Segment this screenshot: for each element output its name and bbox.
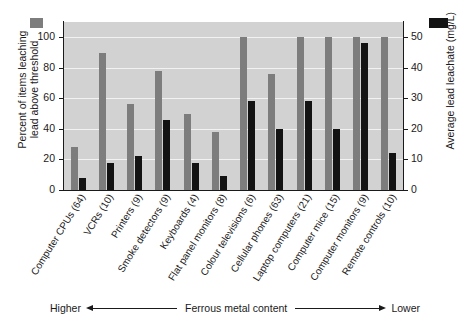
axis-tick-label: 20 bbox=[43, 153, 55, 163]
y-axis-left-line bbox=[63, 21, 64, 191]
arrow-head-left-icon bbox=[86, 305, 93, 311]
bar-average-leachate bbox=[276, 129, 283, 190]
chart-figure: Percent of items leaching lead above thr… bbox=[0, 0, 463, 329]
axis-tick-label: 0 bbox=[49, 184, 55, 194]
bar-average-leachate bbox=[305, 101, 312, 190]
bar-percent-leaching bbox=[381, 37, 388, 190]
axis-tick bbox=[404, 190, 408, 191]
bar-percent-leaching bbox=[325, 37, 332, 190]
axis-tick bbox=[59, 98, 63, 99]
bar-percent-leaching bbox=[212, 132, 219, 190]
bar-percent-leaching bbox=[268, 74, 275, 190]
category-label: Smoke detectors (9) bbox=[115, 192, 172, 274]
bar-groups bbox=[64, 22, 403, 190]
axis-tick-label: 0 bbox=[411, 184, 417, 194]
bar-average-leachate bbox=[107, 163, 114, 190]
axis-tick-label: 100 bbox=[37, 31, 55, 41]
bar-group bbox=[375, 22, 403, 190]
axis-tick-label: 10 bbox=[411, 153, 423, 163]
axis-tick bbox=[404, 129, 408, 130]
bar-average-leachate bbox=[79, 178, 86, 190]
category-label: Computer mice (15) bbox=[286, 192, 342, 273]
bar-average-leachate bbox=[192, 163, 199, 190]
axis-tick bbox=[59, 159, 63, 160]
bar-average-leachate bbox=[361, 43, 368, 190]
arrow-right bbox=[295, 303, 386, 313]
arrow-left-line bbox=[93, 308, 177, 309]
category-label: Remote controls (10) bbox=[339, 192, 398, 277]
bar-percent-leaching bbox=[184, 114, 191, 190]
bar-average-leachate bbox=[333, 129, 340, 190]
bar-percent-leaching bbox=[353, 37, 360, 190]
y-axis-right-title: Average lead leachate (mg/L) bbox=[445, 1, 457, 161]
y-axis-left-title: Percent of items leaching lead above thr… bbox=[17, 10, 40, 170]
axis-tick-label: 40 bbox=[411, 62, 423, 72]
bar-group bbox=[347, 22, 375, 190]
arrow-right-line bbox=[295, 308, 379, 309]
ferrous-higher-label: Higher bbox=[50, 302, 81, 314]
x-axis-line bbox=[63, 190, 404, 191]
bar-percent-leaching bbox=[297, 37, 304, 190]
bar-average-leachate bbox=[248, 101, 255, 190]
axis-tick-label: 30 bbox=[411, 92, 423, 102]
bar-group bbox=[149, 22, 177, 190]
bar-group bbox=[121, 22, 149, 190]
bar-percent-leaching bbox=[127, 104, 134, 190]
bar-group bbox=[177, 22, 205, 190]
bar-group bbox=[64, 22, 92, 190]
axis-tick bbox=[59, 190, 63, 191]
ferrous-lower-label: Lower bbox=[391, 302, 420, 314]
axis-tick bbox=[404, 98, 408, 99]
bar-average-leachate bbox=[163, 120, 170, 190]
axis-tick-label: 60 bbox=[43, 92, 55, 102]
arrow-head-right-icon bbox=[379, 305, 386, 311]
axis-tick bbox=[59, 68, 63, 69]
ferrous-metal-content-label: Ferrous metal content bbox=[182, 302, 290, 314]
axis-tick bbox=[404, 37, 408, 38]
bar-group bbox=[290, 22, 318, 190]
category-label: Cellular phones (63) bbox=[228, 192, 285, 274]
axis-tick bbox=[404, 159, 408, 160]
bar-average-leachate bbox=[220, 176, 227, 190]
bar-group bbox=[234, 22, 262, 190]
category-label: Computer CPUs (64) bbox=[29, 192, 88, 277]
axis-tick-label: 20 bbox=[411, 123, 423, 133]
bar-group bbox=[262, 22, 290, 190]
axis-tick bbox=[59, 129, 63, 130]
arrow-left bbox=[86, 303, 177, 313]
axis-tick-label: 80 bbox=[43, 62, 55, 72]
ferrous-metal-annotation: Higher Ferrous metal content Lower bbox=[50, 300, 420, 316]
bar-group bbox=[205, 22, 233, 190]
bar-percent-leaching bbox=[71, 147, 78, 190]
axis-tick-label: 40 bbox=[43, 123, 55, 133]
bar-percent-leaching bbox=[155, 71, 162, 190]
x-axis-category-labels: Computer CPUs (64)VCRs (10)Printers (9)S… bbox=[64, 192, 403, 292]
bar-percent-leaching bbox=[240, 37, 247, 190]
bar-percent-leaching bbox=[99, 53, 106, 190]
bar-average-leachate bbox=[389, 153, 396, 190]
bar-group bbox=[92, 22, 120, 190]
axis-tick bbox=[59, 37, 63, 38]
bar-average-leachate bbox=[135, 156, 142, 190]
bar-group bbox=[318, 22, 346, 190]
axis-tick bbox=[404, 68, 408, 69]
axis-tick-label: 50 bbox=[411, 31, 423, 41]
y-axis-right-line bbox=[403, 21, 404, 191]
plot-area bbox=[64, 22, 403, 190]
